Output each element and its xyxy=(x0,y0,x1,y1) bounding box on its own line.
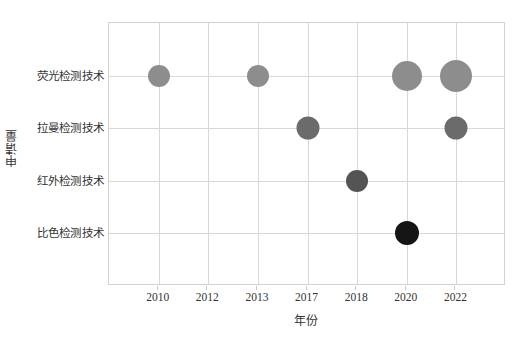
data-point-bubble[interactable] xyxy=(392,61,422,91)
data-point-bubble[interactable] xyxy=(440,60,472,92)
bubble-chart: 申请量 荧光检测技术拉曼检测技术红外检测技术比色检测技术 20102012201… xyxy=(0,0,531,339)
x-tick-label: 2013 xyxy=(245,291,268,303)
gridline-vertical xyxy=(258,23,259,284)
x-tick-mark xyxy=(157,286,158,290)
gridline-horizontal xyxy=(109,181,504,182)
y-tick-label: 拉曼检测技术 xyxy=(37,119,104,135)
y-tick-label: 荧光检测技术 xyxy=(37,67,104,83)
y-axis-tick-labels: 荧光检测技术拉曼检测技术红外检测技术比色检测技术 xyxy=(0,22,104,285)
x-tick-label: 2018 xyxy=(345,291,368,303)
y-tick-label: 比色检测技术 xyxy=(37,224,104,240)
x-tick-mark xyxy=(256,286,257,290)
data-point-bubble[interactable] xyxy=(247,65,269,87)
data-point-bubble[interactable] xyxy=(445,117,468,140)
x-tick-mark xyxy=(206,286,207,290)
data-point-bubble[interactable] xyxy=(296,117,319,140)
gridline-vertical xyxy=(159,23,160,284)
x-axis-title: 年份 xyxy=(108,311,505,329)
gridline-horizontal xyxy=(109,233,504,234)
data-point-bubble[interactable] xyxy=(346,170,368,192)
data-point-bubble[interactable] xyxy=(395,221,419,245)
x-tick-mark xyxy=(405,286,406,290)
gridline-vertical xyxy=(357,23,358,284)
x-axis-tick-labels: 2010201220132017201820202022 xyxy=(108,291,505,307)
x-tick-mark xyxy=(355,286,356,290)
gridline-vertical xyxy=(308,23,309,284)
x-tick-label: 2012 xyxy=(196,291,219,303)
x-tick-label: 2020 xyxy=(394,291,417,303)
gridline-vertical xyxy=(208,23,209,284)
x-tick-label: 2017 xyxy=(295,291,318,303)
x-tick-mark xyxy=(306,286,307,290)
x-tick-label: 2010 xyxy=(146,291,169,303)
plot-area xyxy=(108,22,505,285)
x-tick-mark xyxy=(454,286,455,290)
data-point-bubble[interactable] xyxy=(148,65,170,87)
x-tick-label: 2022 xyxy=(444,291,467,303)
y-tick-label: 红外检测技术 xyxy=(37,172,104,188)
